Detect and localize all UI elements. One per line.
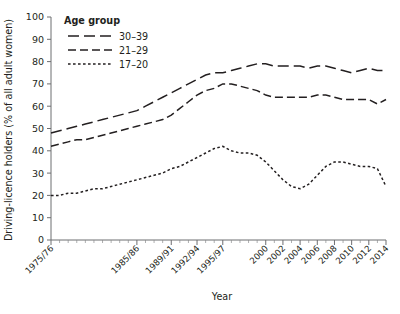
y-tick-label: 30: [32, 168, 44, 179]
series-line-30-39: [51, 64, 386, 133]
series-line-17-20: [51, 146, 386, 195]
x-tick-label: 1985/86: [109, 243, 141, 275]
series-line-21-29: [51, 84, 386, 146]
y-tick-label: 10: [32, 212, 44, 223]
legend-label: 21–29: [119, 45, 148, 56]
x-tick-label: 1975/76: [23, 243, 55, 275]
data-series-group: [51, 64, 386, 196]
x-tick-label: 2002: [265, 243, 288, 266]
legend-label: 17–20: [119, 59, 148, 70]
x-tick-label: 2008: [316, 243, 339, 266]
x-tick-label: 1995/97: [195, 243, 227, 275]
x-tick-label: 2014: [368, 243, 391, 266]
y-axis-tick-labels: 0102030405060708090100: [26, 11, 44, 245]
legend-title: Age group: [64, 15, 120, 26]
x-tick-label: 2004: [282, 243, 305, 266]
x-tick-label: 2012: [351, 243, 374, 266]
chart-canvas: Driving-licence holders (% of all adult …: [0, 0, 400, 314]
chart-legend: Age group 30–3921–2917–20: [64, 15, 148, 70]
x-tick-label: 2006: [299, 243, 322, 266]
y-tick-label: 20: [32, 190, 44, 201]
y-tick-label: 0: [38, 234, 44, 245]
legend-entries: 30–3921–2917–20: [68, 31, 148, 70]
y-tick-label: 90: [32, 34, 44, 45]
y-axis-ticks: [47, 17, 51, 240]
y-tick-label: 70: [32, 78, 44, 89]
y-tick-label: 50: [32, 123, 44, 134]
x-tick-label: 2010: [334, 243, 357, 266]
y-tick-label: 60: [32, 101, 44, 112]
x-axis-tick-labels: 1975/761985/861989/911992/941995/9720002…: [23, 243, 390, 275]
legend-item: 21–29: [68, 45, 148, 56]
legend-label: 30–39: [119, 31, 148, 42]
x-tick-label: 2000: [248, 243, 271, 266]
legend-item: 30–39: [68, 31, 148, 42]
y-tick-label: 80: [32, 56, 44, 67]
y-tick-label: 100: [26, 11, 44, 22]
legend-item: 17–20: [68, 59, 148, 70]
y-axis-title: Driving-licence holders (% of all adult …: [3, 19, 14, 241]
driving-licence-line-chart: Driving-licence holders (% of all adult …: [0, 0, 400, 314]
x-axis-title: Year: [211, 291, 232, 302]
y-tick-label: 40: [32, 145, 44, 156]
